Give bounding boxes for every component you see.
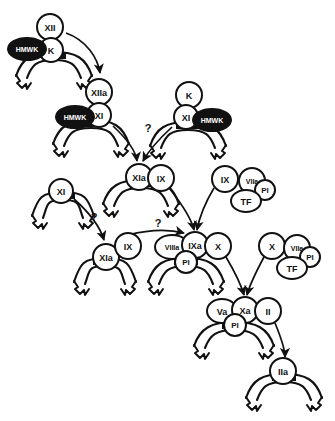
factor-label: XI xyxy=(182,113,191,123)
factor-label: XII xyxy=(44,23,55,33)
factor-label: XIIa xyxy=(91,88,108,98)
factor-label: Xa xyxy=(239,306,251,316)
factor-label: HMWK xyxy=(201,117,224,124)
factor-node-hmwk[interactable]: HMWK xyxy=(193,109,231,131)
factor-node-pl[interactable]: Pl xyxy=(175,251,197,273)
factor-label: II xyxy=(265,307,270,317)
factor-label: Pl xyxy=(231,321,239,330)
factor-label: Pl xyxy=(306,253,314,262)
factor-label: XI xyxy=(57,187,66,197)
reaction-arrow xyxy=(247,257,264,295)
coagulation-cascade-diagram: ??? XIIKHMWKXIIaXIHMWKKXIHMWKXIaIXXIXIaI… xyxy=(0,0,335,421)
factor-node-tf[interactable]: TF xyxy=(231,190,261,212)
factor-label: VIIIa xyxy=(165,244,180,251)
factor-node-iia[interactable]: IIa xyxy=(270,358,296,384)
factor-label: K xyxy=(186,91,193,101)
factor-label: IX xyxy=(221,175,230,185)
factor-node-xiia[interactable]: XIIa xyxy=(86,79,112,105)
reaction-arrow: ? xyxy=(128,217,184,235)
factor-node-pl[interactable]: Pl xyxy=(224,314,246,336)
factor-node-xi[interactable]: XI xyxy=(49,179,73,203)
factor-label: XIa xyxy=(132,173,147,183)
diagram-container: ??? XIIKHMWKXIIaXIHMWKKXIHMWKXIaIXXIXIaI… xyxy=(0,0,335,421)
factor-label: Pl xyxy=(261,186,269,195)
factor-node-x[interactable]: X xyxy=(205,233,231,259)
factor-node-hmwk[interactable]: HMWK xyxy=(8,38,46,60)
uncertainty-label: ? xyxy=(91,211,98,223)
factor-node-ii[interactable]: II xyxy=(255,298,281,324)
factor-label: X xyxy=(215,242,221,252)
factor-label: X xyxy=(269,242,275,252)
reaction-arrow xyxy=(170,189,194,230)
factor-label: HMWK xyxy=(64,114,87,121)
factor-node-hmwk[interactable]: HMWK xyxy=(56,106,94,128)
factor-node-ix[interactable]: IX xyxy=(148,165,174,191)
factor-label: IXa xyxy=(188,241,203,251)
factor-label: Pl xyxy=(182,258,190,267)
factor-label: IX xyxy=(157,174,166,184)
factor-label: HMWK xyxy=(16,46,39,53)
factor-node-xii[interactable]: XII xyxy=(37,14,63,40)
factor-label: Va xyxy=(217,307,229,317)
factor-node-ix[interactable]: IX xyxy=(212,166,238,192)
reaction-arrow xyxy=(197,188,214,230)
uncertainty-label: ? xyxy=(155,217,162,229)
factor-node-x[interactable]: X xyxy=(259,233,285,259)
reaction-arrow xyxy=(226,257,244,295)
reaction-arrow xyxy=(275,323,285,357)
factor-node-k[interactable]: K xyxy=(176,82,202,108)
factor-label: K xyxy=(48,46,55,56)
factor-label: TF xyxy=(287,264,298,274)
factor-label: IX xyxy=(124,242,133,252)
factor-label: IIa xyxy=(278,367,289,377)
factor-label: TF xyxy=(241,197,252,207)
factor-label: XIa xyxy=(99,253,114,263)
uncertainty-label: ? xyxy=(145,122,152,134)
factor-node-tf[interactable]: TF xyxy=(277,257,307,279)
factor-label: XI xyxy=(95,111,104,121)
factor-node-ix[interactable]: IX xyxy=(115,233,141,259)
